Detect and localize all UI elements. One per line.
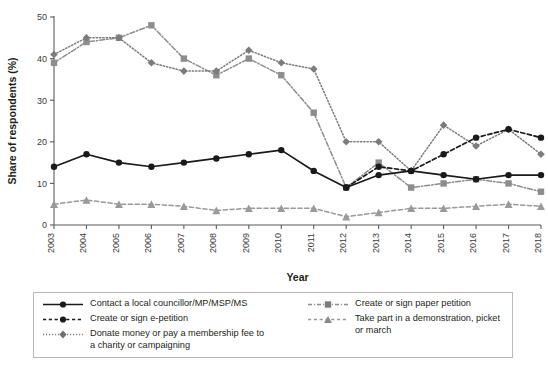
data-point xyxy=(51,164,57,170)
legend-label-line1: Donate money or pay a membership fee to xyxy=(90,328,264,338)
series-2 xyxy=(50,34,545,175)
chart-legend: Contact a local councillor/MP/MSP/MS Cre… xyxy=(33,292,513,358)
x-tick-label: 2004 xyxy=(78,233,88,253)
y-tick-label: 0 xyxy=(42,220,47,230)
x-tick-label: 2008 xyxy=(208,233,218,253)
data-point xyxy=(246,55,252,61)
data-point xyxy=(51,60,57,66)
legend-label-line1: Create or sign e-petition xyxy=(90,313,188,323)
legend-label: Donate money or pay a membership fee to … xyxy=(90,328,303,351)
data-point xyxy=(505,180,511,186)
legend-label: Create or sign paper petition xyxy=(355,298,510,310)
data-point xyxy=(375,138,383,146)
series-line xyxy=(346,129,541,187)
data-point xyxy=(440,180,446,186)
data-point xyxy=(440,151,446,157)
data-point xyxy=(505,126,511,132)
y-tick-label: 20 xyxy=(37,137,47,147)
legend-item-contact-councillor[interactable]: Contact a local councillor/MP/MSP/MS xyxy=(41,298,303,310)
y-tick-label: 40 xyxy=(37,54,47,64)
data-point xyxy=(116,159,122,165)
legend-label-line1: Take part in a demonstration, picket or … xyxy=(355,313,500,335)
x-tick-label: 2017 xyxy=(501,233,511,253)
x-tick-label: 2003 xyxy=(46,233,56,253)
data-point xyxy=(473,134,479,140)
legend-swatch-solid-circle-icon xyxy=(41,299,85,310)
line-chart-plot: 0102030405020032004200520062007200820092… xyxy=(0,0,548,292)
series-line xyxy=(54,150,541,187)
legend-column-left: Contact a local councillor/MP/MSP/MS Cre… xyxy=(41,298,303,354)
data-point xyxy=(472,142,480,150)
data-point xyxy=(375,164,381,170)
y-tick-label: 10 xyxy=(37,179,47,189)
data-point xyxy=(83,151,89,157)
series-line xyxy=(54,25,541,191)
legend-item-e-petition[interactable]: Create or sign e-petition xyxy=(41,313,303,325)
legend-label: Create or sign e-petition xyxy=(90,313,303,325)
x-axis-title: Year xyxy=(286,271,308,283)
data-point xyxy=(538,189,544,195)
data-point xyxy=(440,121,448,129)
data-point xyxy=(213,155,219,161)
legend-label-line2: a charity or campaigning xyxy=(90,340,303,352)
data-point xyxy=(148,22,154,28)
data-point xyxy=(311,109,317,115)
legend-item-donate-money[interactable]: Donate money or pay a membership fee to … xyxy=(41,328,303,351)
x-tick-label: 2009 xyxy=(241,233,251,253)
legend-item-paper-petition[interactable]: Create or sign paper petition xyxy=(306,298,510,310)
x-tick-label: 2015 xyxy=(436,233,446,253)
x-tick-label: 2018 xyxy=(533,233,543,253)
legend-swatch-dotted-diamond-icon xyxy=(41,329,85,340)
data-point xyxy=(408,168,414,174)
y-tick-label: 50 xyxy=(37,12,47,22)
x-tick-label: 2012 xyxy=(338,233,348,253)
legend-label: Contact a local councillor/MP/MSP/MS xyxy=(90,298,303,310)
x-tick-label: 2005 xyxy=(111,233,121,253)
legend-swatch-dashed-circle-icon xyxy=(41,314,85,325)
series-4 xyxy=(50,196,545,220)
series-line xyxy=(54,200,541,217)
legend-swatch-dashed-triangle-icon xyxy=(306,314,350,325)
series-line xyxy=(54,38,541,171)
x-tick-label: 2016 xyxy=(468,233,478,253)
y-tick-label: 30 xyxy=(37,96,47,106)
x-tick-label: 2010 xyxy=(273,233,283,253)
series-0 xyxy=(51,147,544,191)
legend-column-right: Create or sign paper petition Take part … xyxy=(306,298,510,339)
data-point xyxy=(538,172,544,178)
data-point xyxy=(310,65,318,73)
data-point xyxy=(343,184,349,190)
data-point xyxy=(50,51,58,59)
y-axis-title: Share of respondents (%) xyxy=(6,57,18,184)
x-tick-label: 2006 xyxy=(143,233,153,253)
data-point xyxy=(311,168,317,174)
data-point xyxy=(440,172,446,178)
x-tick-label: 2013 xyxy=(371,233,381,253)
data-point xyxy=(375,172,381,178)
legend-swatch-dashdot-square-icon xyxy=(306,299,350,310)
data-point xyxy=(537,150,545,158)
x-tick-label: 2014 xyxy=(403,233,413,253)
data-point xyxy=(148,164,154,170)
data-point xyxy=(505,172,511,178)
data-point xyxy=(277,59,285,67)
x-tick-label: 2011 xyxy=(306,233,316,252)
data-point xyxy=(342,138,350,146)
legend-label-line1: Create or sign paper petition xyxy=(355,298,471,308)
data-point xyxy=(278,147,284,153)
x-tick-label: 2007 xyxy=(176,233,186,253)
data-point xyxy=(245,46,253,54)
data-point xyxy=(408,184,414,190)
legend-label: Take part in a demonstration, picket or … xyxy=(355,313,510,336)
data-point xyxy=(246,151,252,157)
legend-item-demonstration[interactable]: Take part in a demonstration, picket or … xyxy=(306,313,510,336)
data-point xyxy=(278,72,284,78)
legend-label-line1: Contact a local councillor/MP/MSP/MS xyxy=(90,298,247,308)
data-point xyxy=(181,159,187,165)
data-point xyxy=(181,55,187,61)
data-point xyxy=(180,67,188,75)
data-point xyxy=(473,176,479,182)
data-point xyxy=(538,134,544,140)
series-3 xyxy=(51,22,544,195)
